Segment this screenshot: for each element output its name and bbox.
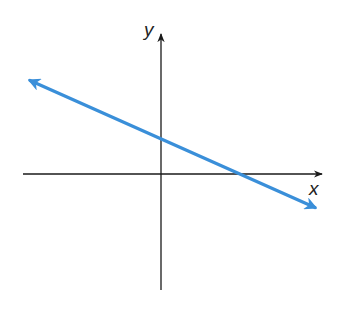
y-axis-label: y (142, 19, 155, 40)
coordinate-plane: y x (0, 0, 342, 309)
graph-line (30, 81, 315, 208)
x-axis-label: x (308, 178, 320, 199)
